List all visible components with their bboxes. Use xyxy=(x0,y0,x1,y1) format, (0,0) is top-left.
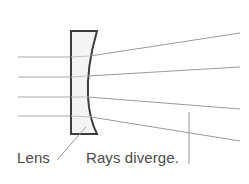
concave-diverging-lens xyxy=(71,31,97,134)
incoming-rays-group xyxy=(18,57,72,116)
lens-diagram-figure: Lens Rays diverge. xyxy=(0,0,249,184)
diverging-ray-4 xyxy=(91,117,240,141)
diverging-ray-1 xyxy=(90,33,240,56)
rays-diverge-label: Rays diverge. xyxy=(86,150,179,165)
diverging-ray-3 xyxy=(88,97,240,109)
diverging-rays-group xyxy=(88,33,240,141)
lens-label: Lens xyxy=(17,150,50,165)
diverging-ray-2 xyxy=(88,67,240,76)
